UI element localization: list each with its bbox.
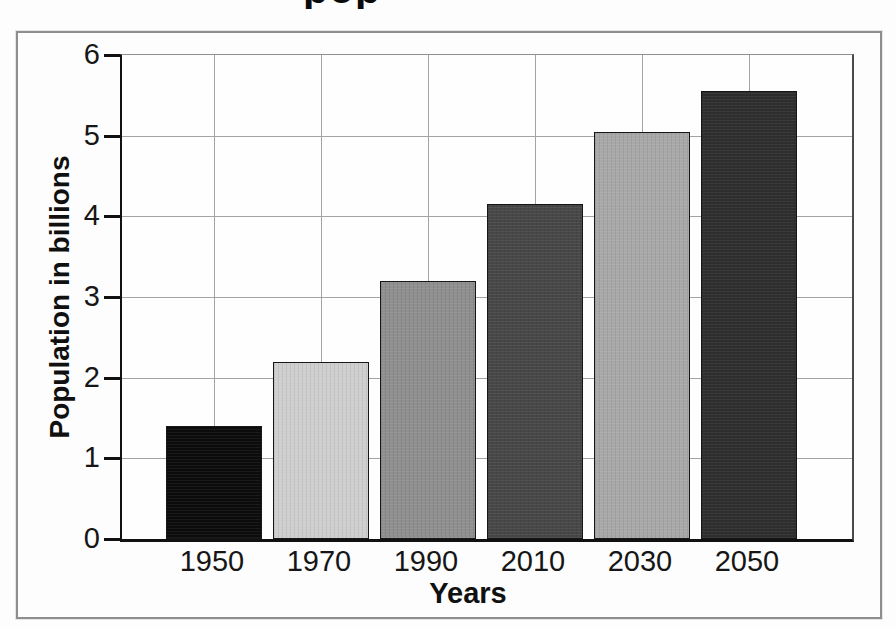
y-tick-label-5: 5	[56, 119, 100, 151]
figure-title-cropped: pop	[0, 0, 896, 9]
y-tick-3	[104, 296, 120, 299]
x-tick-label-2030: 2030	[580, 545, 700, 577]
y-tick-label-3: 3	[56, 280, 100, 312]
y-tick-label-0: 0	[56, 522, 100, 554]
x-tick-label-2050: 2050	[687, 545, 807, 577]
x-tick-label-1950: 1950	[152, 545, 272, 577]
bar-2050	[701, 91, 797, 539]
bar-1950	[166, 426, 262, 539]
y-tick-label-1: 1	[56, 441, 100, 473]
x-tick-label-1970: 1970	[259, 545, 379, 577]
y-tick-1	[104, 457, 120, 460]
y-tick-2	[104, 377, 120, 380]
y-tick-0	[104, 538, 120, 541]
bar-1990	[380, 281, 476, 539]
x-tick-label-2010: 2010	[473, 545, 593, 577]
bar-2010	[487, 204, 583, 539]
y-tick-label-6: 6	[56, 38, 100, 70]
y-tick-label-4: 4	[56, 199, 100, 231]
y-tick-6	[104, 54, 120, 57]
x-axis-title: Years	[393, 577, 543, 609]
bar-2030	[594, 132, 690, 539]
scanned-page: pop Population in billions 0123456195019…	[0, 0, 896, 627]
plot-area	[120, 54, 854, 542]
figure-title-cropped-text: pop	[303, 0, 381, 9]
y-tick-label-2: 2	[56, 361, 100, 393]
bar-1970	[273, 362, 369, 539]
y-tick-4	[104, 215, 120, 218]
figure-frame: Population in billions 01234561950197019…	[16, 31, 882, 619]
y-tick-5	[104, 135, 120, 138]
x-tick-label-1990: 1990	[366, 545, 486, 577]
